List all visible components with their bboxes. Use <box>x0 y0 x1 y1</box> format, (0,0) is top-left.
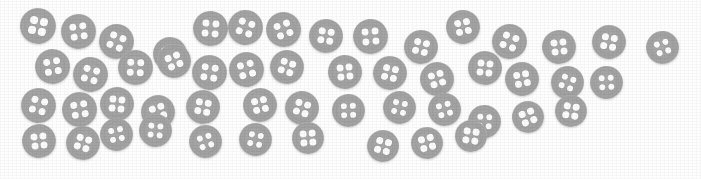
button-hole <box>201 29 209 37</box>
button-object <box>236 120 275 159</box>
button-hole <box>551 48 559 56</box>
button-hole <box>374 145 382 153</box>
button-hole <box>300 139 307 146</box>
button-holes <box>599 32 618 51</box>
button-hole <box>109 136 117 144</box>
button-hole <box>79 22 87 30</box>
button-holes <box>476 59 494 77</box>
button-hole <box>273 22 282 31</box>
button-hole <box>40 18 49 27</box>
button-hole <box>116 125 124 133</box>
button-hole <box>502 31 511 40</box>
button-object <box>17 5 60 48</box>
button-hole <box>607 74 614 81</box>
button-hole <box>195 98 203 106</box>
button-hole <box>376 137 384 145</box>
button-hole <box>371 27 379 35</box>
button-holes <box>361 27 379 45</box>
button-hole <box>248 130 256 138</box>
button-object <box>223 5 267 49</box>
button-hole <box>54 66 62 74</box>
button-hole <box>148 122 155 129</box>
button-object <box>326 53 363 90</box>
button-object <box>364 127 403 166</box>
button-hole <box>280 57 289 66</box>
button-object <box>265 45 308 88</box>
button-hole <box>453 19 461 27</box>
button-hole <box>486 114 493 121</box>
button-hole <box>401 100 409 108</box>
button-hole <box>246 139 254 147</box>
button-hole <box>653 40 661 48</box>
button-hole <box>477 59 485 67</box>
button-scatter-scene <box>0 0 701 179</box>
button-hole <box>350 111 357 118</box>
button-hole <box>69 23 77 31</box>
button-hole <box>211 30 219 38</box>
button-hole <box>611 34 619 42</box>
button-hole <box>372 37 380 45</box>
button-hole <box>444 100 452 108</box>
button-hole <box>349 102 356 109</box>
button-hole <box>70 101 78 109</box>
button-holes <box>127 59 145 77</box>
button-hole <box>562 111 569 118</box>
button-hole <box>399 109 407 117</box>
button-holes <box>317 27 336 46</box>
button-hole <box>524 79 532 87</box>
button-object <box>291 121 326 156</box>
button-hole <box>257 132 265 140</box>
button-holes <box>108 95 126 113</box>
button-hole <box>518 110 526 118</box>
button-holes <box>246 130 265 149</box>
button-hole <box>464 127 471 134</box>
button-hole <box>465 27 473 35</box>
button-hole <box>39 132 47 140</box>
button-object <box>540 28 578 66</box>
button-object <box>32 46 73 87</box>
button-holes <box>550 38 568 56</box>
button-hole <box>345 63 353 71</box>
button-object <box>380 88 419 127</box>
button-object <box>261 7 306 52</box>
button-hole <box>512 71 520 79</box>
button-object <box>240 85 281 126</box>
button-hole <box>210 74 218 82</box>
button-hole <box>200 73 208 81</box>
button-hole <box>236 62 245 71</box>
button-hole <box>295 98 304 107</box>
button-object <box>20 122 58 160</box>
button-hole <box>426 134 434 142</box>
button-hole <box>147 131 154 138</box>
button-holes <box>107 125 126 144</box>
button-hole <box>477 113 484 120</box>
button-hole <box>382 63 390 71</box>
button-hole <box>238 17 247 26</box>
button-object <box>59 12 99 52</box>
button-hole <box>127 68 134 75</box>
button-hole <box>118 96 126 104</box>
button-hole <box>559 38 567 46</box>
button-hole <box>564 102 571 109</box>
button-hole <box>455 29 463 37</box>
button-hole <box>28 105 37 114</box>
button-object <box>183 87 222 126</box>
button-hole <box>255 141 263 149</box>
button-hole <box>362 38 370 46</box>
button-hole <box>317 36 325 44</box>
button-hole <box>418 136 426 144</box>
button-holes <box>147 122 164 139</box>
button-hole <box>71 111 79 119</box>
button-holes <box>69 22 88 41</box>
button-hole <box>80 73 89 82</box>
button-hole <box>201 63 209 71</box>
button-hole <box>486 60 494 68</box>
button-holes <box>300 130 317 147</box>
button-hole <box>204 99 212 107</box>
button-hole <box>560 47 568 55</box>
button-hole <box>44 68 52 76</box>
button-hole <box>156 132 163 139</box>
button-object <box>407 123 446 162</box>
button-hole <box>43 58 51 66</box>
button-object <box>59 89 99 129</box>
